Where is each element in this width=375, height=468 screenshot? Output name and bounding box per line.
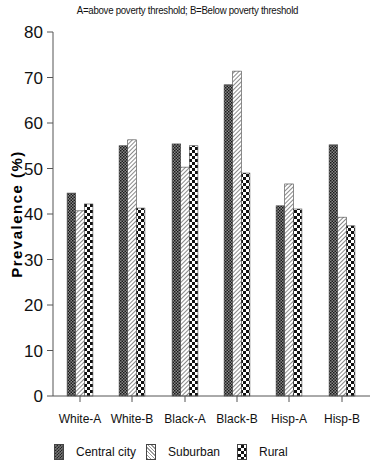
- bar: [181, 167, 190, 396]
- bar-chart: 01020304050607080 White-AWhite-BBlack-AB…: [0, 0, 375, 440]
- bar: [136, 208, 145, 396]
- x-tick-label: White-A: [59, 412, 102, 426]
- x-tick-label: Black-B: [216, 412, 257, 426]
- bar: [172, 144, 181, 396]
- bar-group: [119, 140, 145, 396]
- y-axis: 01020304050607080: [24, 23, 53, 406]
- y-tick-label: 50: [24, 160, 43, 179]
- legend: Central city Suburban Rural: [0, 444, 375, 464]
- bar: [276, 206, 285, 396]
- bar: [329, 145, 338, 396]
- bar: [233, 71, 242, 396]
- x-tick-label: White-B: [111, 412, 154, 426]
- bars: [67, 71, 355, 396]
- bar-group: [329, 145, 355, 396]
- bar: [224, 85, 233, 396]
- bar: [84, 204, 93, 396]
- x-tick-label: Hisp-B: [324, 412, 360, 426]
- bar-group: [276, 184, 302, 396]
- legend-label: Rural: [259, 445, 288, 459]
- legend-label: Suburban: [168, 445, 220, 459]
- bar-group: [172, 144, 198, 396]
- x-tick-label: Hisp-A: [271, 412, 307, 426]
- bar: [76, 211, 85, 396]
- bar-group: [67, 193, 93, 396]
- y-tick-label: 70: [24, 69, 43, 88]
- central-city-swatch-icon: [54, 444, 64, 460]
- bar-group: [224, 71, 250, 396]
- bar: [119, 146, 128, 396]
- bar: [338, 217, 347, 396]
- y-tick-label: 60: [24, 114, 43, 133]
- x-tick-label: Black-A: [164, 412, 205, 426]
- y-tick-label: 40: [24, 205, 43, 224]
- bar: [128, 140, 137, 396]
- legend-label: Central city: [76, 445, 136, 459]
- legend-item-central-city: Central city: [54, 444, 136, 460]
- bar: [285, 184, 294, 396]
- bar: [241, 173, 250, 396]
- rural-swatch-icon: [237, 444, 247, 460]
- y-tick-label: 20: [24, 296, 43, 315]
- legend-item-rural: Rural: [237, 444, 288, 460]
- y-axis-label: Prevalence (%): [8, 150, 25, 278]
- legend-item-suburban: Suburban: [146, 444, 220, 460]
- bar: [346, 226, 355, 396]
- y-tick-label: 80: [24, 23, 43, 42]
- bar: [293, 209, 302, 396]
- y-tick-label: 30: [24, 251, 43, 270]
- y-tick-label: 0: [34, 387, 43, 406]
- x-axis: White-AWhite-BBlack-ABlack-BHisp-AHisp-B: [53, 396, 370, 426]
- suburban-swatch-icon: [146, 444, 156, 460]
- bar: [189, 146, 198, 396]
- y-tick-label: 10: [24, 342, 43, 361]
- bar: [67, 193, 76, 396]
